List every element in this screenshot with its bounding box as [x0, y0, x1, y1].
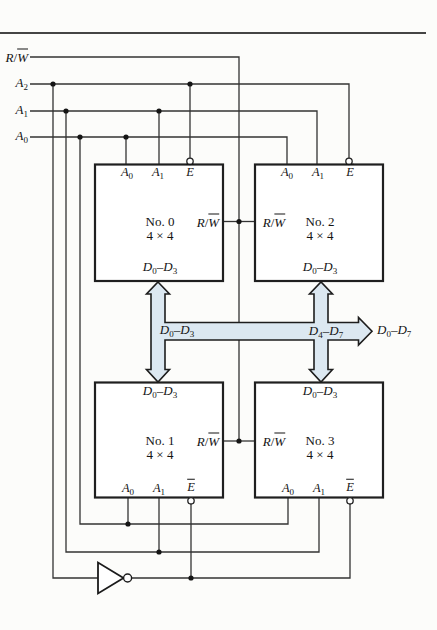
signal-rw-label: R/W	[6, 51, 28, 64]
chip3-pin-a0-label: A0	[282, 482, 294, 497]
chip3-size: 4 × 4	[307, 448, 334, 461]
enable-bottom-bus	[132, 504, 350, 578]
chip0-size: 4 × 4	[147, 229, 174, 242]
chip0-data-label: D0–D3	[143, 260, 177, 276]
junction-dot	[188, 575, 193, 580]
enable-bubble-chip0	[187, 158, 193, 164]
chip3-data-label: D0–D3	[303, 384, 337, 400]
signal-a2-label: A2	[16, 76, 28, 92]
signal-a0-label: A0	[16, 129, 28, 145]
chip3-rw-label: R/W	[263, 435, 285, 448]
inverter-gate	[98, 563, 124, 594]
chip2-pin-a1-label: A1	[312, 166, 324, 181]
chip1-pin-enable-label: E	[187, 481, 195, 494]
chip1-size: 4 × 4	[147, 448, 174, 461]
chip3-pin-a1-label: A1	[313, 482, 325, 497]
junction-dot	[236, 219, 241, 224]
chip0-pin-a0-label: A0	[121, 166, 133, 181]
a2-branch-inverter	[53, 84, 98, 578]
chip2-rw-label: R/W	[263, 216, 285, 229]
junction-dot	[77, 134, 82, 139]
chip1-name: No. 1	[146, 434, 175, 447]
signal-a1-label: A1	[16, 103, 28, 119]
bus-d4-d7-label: D4–D7	[309, 324, 343, 340]
chip0-name: No. 0	[146, 215, 175, 228]
enable-bubble-chip3	[347, 498, 353, 504]
chip2-name: No. 2	[306, 215, 335, 228]
chip2-pin-enable-label: E	[346, 166, 354, 179]
chip2-pin-a0-label: A0	[281, 166, 293, 181]
chip1-rw-label: R/W	[197, 435, 219, 448]
junction-dot	[125, 521, 130, 526]
a1-wire	[30, 111, 317, 165]
junction-dot	[63, 108, 68, 113]
enable-bubble-chip1	[188, 498, 194, 504]
wiring-layer	[0, 0, 437, 630]
chip0-rw-label: R/W	[197, 216, 219, 229]
chip3-name: No. 3	[306, 434, 335, 447]
bus-d0-d7-output-label: D0–D7	[377, 323, 411, 339]
junction-dot	[156, 108, 161, 113]
bus-d0-d3-label: D0–D3	[160, 323, 194, 339]
circuit-diagram: R/W A2 A1 A0 A0 A1 E No. 0 4 × 4 R/W D0–…	[0, 0, 437, 630]
junction-dot	[156, 549, 161, 554]
inverter-bubble-icon	[124, 574, 132, 582]
chip1-pin-a1-label: A1	[153, 482, 165, 497]
junction-dot	[236, 438, 241, 443]
chip0-pin-a1-label: A1	[152, 166, 164, 181]
chip0-pin-enable-label: E	[186, 166, 194, 179]
junction-dot	[123, 134, 128, 139]
chip1-data-label: D0–D3	[143, 384, 177, 400]
chip1-pin-a0-label: A0	[122, 482, 134, 497]
junction-dot	[50, 81, 55, 86]
junction-dot	[187, 81, 192, 86]
chip2-data-label: D0–D3	[303, 260, 337, 276]
chip3-pin-enable-label: E	[346, 481, 354, 494]
enable-bubble-chip2	[346, 158, 352, 164]
chip2-size: 4 × 4	[307, 229, 334, 242]
